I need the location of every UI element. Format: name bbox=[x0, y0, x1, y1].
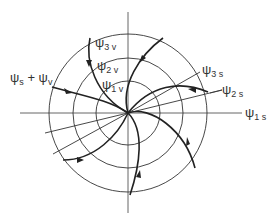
arrow-left bbox=[64, 88, 72, 94]
arrow-right bbox=[188, 87, 196, 93]
spiral-bottom bbox=[128, 113, 139, 195]
label-psi2v: ψ2 v bbox=[97, 58, 119, 75]
radial-line-left-1 bbox=[45, 113, 128, 133]
label-psi1v: ψ1 v bbox=[102, 77, 124, 94]
radial-line-psi2s bbox=[128, 90, 222, 113]
leader-psi2s bbox=[210, 90, 222, 93]
label-psi3s: ψ3 s bbox=[202, 62, 224, 79]
radial-line-psi3s bbox=[128, 72, 200, 113]
arrow-bottom-right bbox=[186, 137, 190, 146]
radial-line-left-2 bbox=[53, 113, 128, 154]
arrowheads bbox=[64, 55, 196, 178]
label-psi1s: ψ1 s bbox=[245, 105, 267, 122]
spiral-bottom-left bbox=[63, 113, 128, 160]
label-psis-plus-psiv: ψs + ψv bbox=[10, 70, 53, 87]
vortex-diagram: ψ3 v ψ2 v ψ1 v ψs + ψv ψ3 s ψ2 s ψ1 s bbox=[0, 0, 277, 221]
label-psi2s: ψ2 s bbox=[222, 82, 244, 99]
